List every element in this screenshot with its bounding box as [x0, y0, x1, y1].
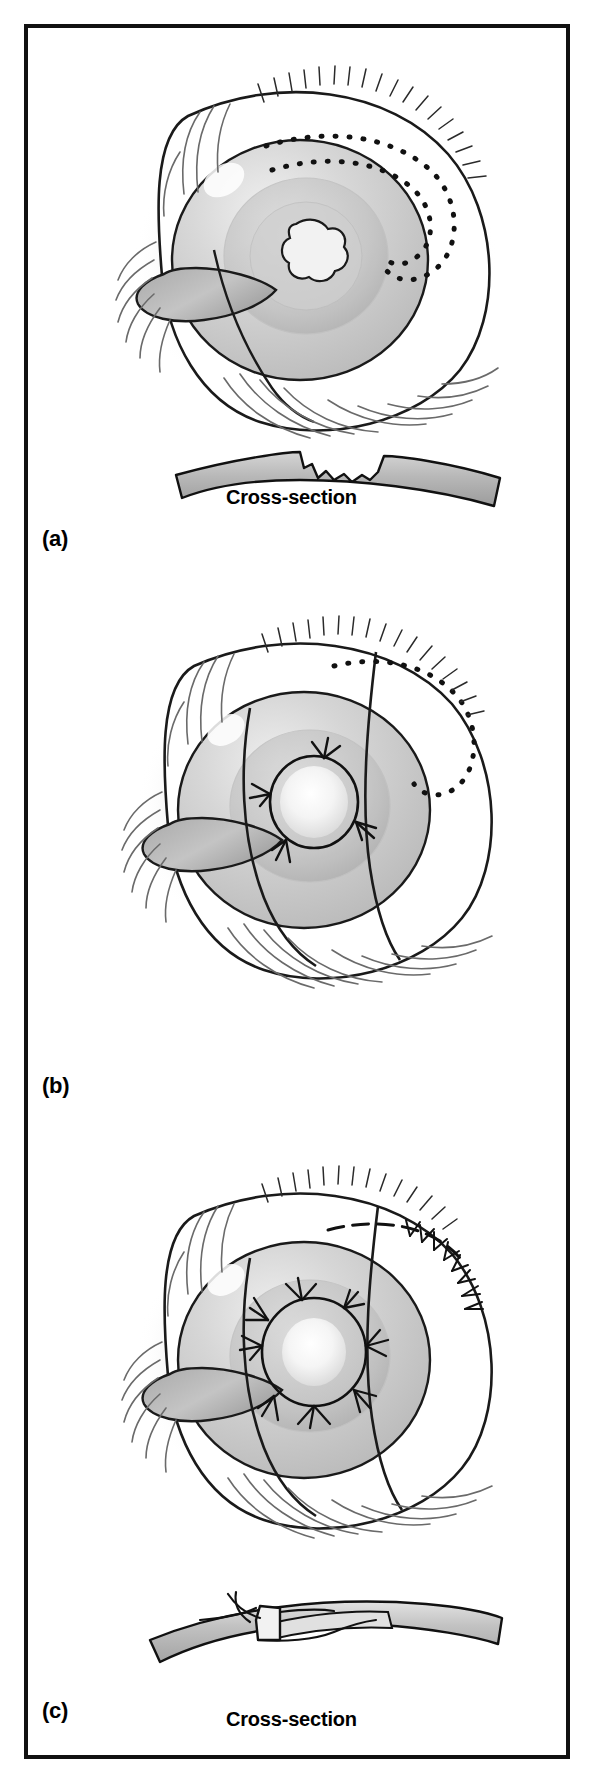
figure-root: Cross-section (a): [0, 0, 594, 1783]
panel-label-b: (b): [42, 1073, 69, 1099]
panel-c: Cross-section (c): [28, 1128, 574, 1763]
suture-loop-body: [256, 1606, 280, 1640]
panel-c-illustration: [28, 1128, 574, 1763]
panel-label-a: (a): [42, 526, 68, 552]
panel-b-illustration: [28, 588, 574, 1128]
cross-section-caption-a: Cross-section: [226, 486, 357, 509]
panel-b: (b): [28, 588, 574, 1128]
cross-section-caption-c: Cross-section: [226, 1708, 357, 1731]
cross-section-c: [150, 1592, 502, 1662]
graft-over-defect: [282, 1318, 346, 1386]
panel-label-c: (c): [42, 1698, 68, 1724]
panel-a: Cross-section (a): [28, 28, 574, 588]
graft-over-defect: [280, 766, 348, 838]
figure-plate-border: Cross-section (a): [24, 24, 570, 1759]
